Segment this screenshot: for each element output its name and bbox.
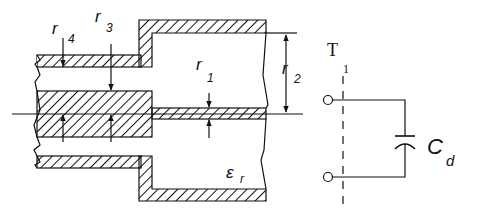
- r4-subscript: 4: [68, 32, 75, 46]
- terminal-label: T: [327, 40, 338, 60]
- large-coax-outer-conductor-top: [139, 20, 266, 67]
- capacitor-label: C: [427, 134, 443, 159]
- capacitor-subscript: d: [446, 152, 455, 169]
- r2-label: r: [282, 59, 289, 78]
- coax-step-diagram: r 4 r 3 r 1 r 2 ε r T 1 C d: [0, 0, 481, 216]
- r3-label: r: [95, 7, 102, 26]
- r2-subscript: 2: [293, 72, 301, 86]
- epsilon-subscript: r: [240, 172, 245, 186]
- large-coax-outer-conductor-bottom: [139, 156, 266, 201]
- r3-subscript: 3: [106, 21, 113, 35]
- r1-subscript: 1: [207, 71, 214, 85]
- r4-label: r: [52, 19, 59, 38]
- upper-terminal: [324, 96, 333, 105]
- r1-label: r: [196, 55, 203, 74]
- lower-terminal: [324, 173, 333, 182]
- epsilon-label: ε: [226, 163, 234, 182]
- terminal-subscript: 1: [343, 62, 349, 76]
- small-coax-outer-conductor-bottom: [37, 156, 141, 168]
- small-coax-outer-conductor-top: [37, 55, 141, 67]
